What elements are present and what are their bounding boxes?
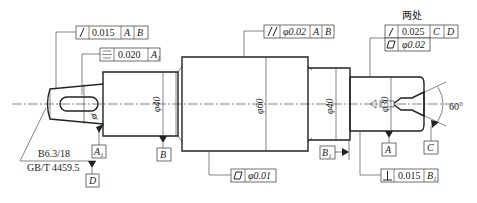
note-two-places: 两处 <box>402 10 422 21</box>
svg-text:0.015: 0.015 <box>398 170 421 181</box>
svg-text:B: B <box>160 149 166 160</box>
fcf-perpendicular: 0.015 B₁ <box>360 132 438 182</box>
svg-text:φ0.01: φ0.01 <box>248 170 271 181</box>
svg-text:φ40: φ40 <box>324 98 335 114</box>
svg-text:A: A <box>123 27 131 38</box>
svg-text:φ40: φ40 <box>151 96 162 112</box>
fcf-runout-right: 0.025 C D <box>385 25 458 38</box>
svg-text:B: B <box>325 26 331 37</box>
svg-text:D: D <box>446 26 455 37</box>
fcf-cylindricity-right: φ0.02 <box>370 38 430 76</box>
svg-text:0.015: 0.015 <box>92 27 115 38</box>
datum-B: B <box>157 136 171 161</box>
datum-A1: A₁ <box>92 124 106 158</box>
svg-text:A₁: A₁ <box>150 49 161 60</box>
svg-text:A: A <box>312 26 320 37</box>
svg-text:0.020: 0.020 <box>118 49 141 60</box>
svg-text:D: D <box>88 175 97 186</box>
svg-text:φ30: φ30 <box>379 96 390 112</box>
datum-A: A <box>382 131 396 156</box>
svg-text:B₁: B₁ <box>322 147 332 158</box>
svg-text:ϕ: ϕ <box>87 111 99 121</box>
dim-phi40-right: φ40 <box>324 68 336 140</box>
note-center-hole: B6.3/18 <box>38 148 70 159</box>
svg-text:C: C <box>433 26 440 37</box>
svg-text:A: A <box>384 144 392 155</box>
dim-phi30: φ30 <box>379 77 391 131</box>
drawing-canvas: 60° φ40 φ60 φ40 φ30 ϕ 0.015 A B 0.020 <box>0 0 477 203</box>
svg-text:A₁: A₁ <box>93 146 104 157</box>
svg-text:0.025: 0.025 <box>402 26 425 37</box>
datum-B1: B₁ <box>320 140 349 160</box>
svg-text:B₁: B₁ <box>427 170 437 181</box>
svg-text:φ60: φ60 <box>254 98 265 114</box>
fcf-parallel: φ0.02 A B <box>244 25 334 56</box>
svg-text:C: C <box>427 142 434 153</box>
svg-text:φ0.02: φ0.02 <box>283 26 306 37</box>
dim-phi60: φ60 <box>254 57 266 151</box>
datum-C: C <box>424 120 439 154</box>
note-standard: GB/T 4459.5 <box>27 162 80 173</box>
angle-dim: 60° <box>449 101 463 112</box>
dim-phi40-left: φ40 <box>151 72 163 136</box>
fcf-cylindricity-mid: φ0.01 <box>209 152 276 182</box>
svg-text:φ0.02: φ0.02 <box>402 39 425 50</box>
svg-text:B: B <box>137 27 143 38</box>
